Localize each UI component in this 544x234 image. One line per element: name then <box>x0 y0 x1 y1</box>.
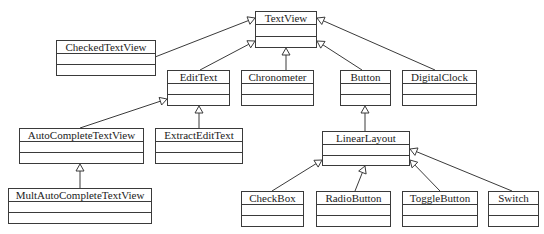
class-name: AutoCompleteTextView <box>20 129 143 142</box>
class-box-edittext: EditText <box>167 70 230 106</box>
class-name: RadioButton <box>317 192 390 205</box>
class-attributes-compartment <box>20 142 143 153</box>
class-attributes-compartment <box>403 205 477 216</box>
inheritance-line <box>415 165 440 191</box>
hollow-triangle-arrow-icon <box>317 17 325 24</box>
hollow-triangle-arrow-icon <box>195 106 203 113</box>
hollow-triangle-arrow-icon <box>76 164 84 171</box>
class-name: CheckedTextView <box>57 41 155 54</box>
class-name: Button <box>341 71 390 84</box>
class-operations-compartment <box>20 153 143 163</box>
class-attributes-compartment <box>242 205 303 216</box>
inheritance-line <box>323 21 435 70</box>
class-attributes-compartment <box>256 25 316 37</box>
class-attributes-compartment <box>403 84 476 95</box>
hollow-triangle-arrow-icon <box>247 17 255 24</box>
class-diagram-canvas: TextViewCheckedTextViewEditTextChronomet… <box>0 0 544 234</box>
class-operations-compartment <box>323 156 409 166</box>
class-operations-compartment <box>9 213 151 223</box>
class-operations-compartment <box>489 216 538 226</box>
hollow-triangle-arrow-icon <box>159 97 167 105</box>
class-name: CheckBox <box>242 192 303 205</box>
class-attributes-compartment <box>489 205 538 216</box>
class-operations-compartment <box>156 153 242 163</box>
class-name: Chronometer <box>242 71 313 84</box>
hollow-triangle-arrow-icon <box>361 106 369 113</box>
class-box-radiobutton: RadioButton <box>316 191 391 227</box>
hollow-triangle-arrow-icon <box>359 166 366 174</box>
class-name: TextView <box>256 12 316 25</box>
class-box-linearlayout: LinearLayout <box>322 131 410 166</box>
class-box-digitalclock: DigitalClock <box>402 70 477 106</box>
hollow-triangle-arrow-icon <box>314 160 322 167</box>
class-name: ExtractEditText <box>156 129 242 142</box>
class-box-chronometer: Chronometer <box>241 70 314 106</box>
class-box-switch: Switch <box>488 191 539 227</box>
class-attributes-compartment <box>9 202 151 213</box>
hollow-triangle-arrow-icon <box>410 148 418 155</box>
class-attributes-compartment <box>323 145 409 156</box>
class-name: ToggleButton <box>403 192 477 205</box>
class-name: EditText <box>168 71 229 84</box>
class-name: Switch <box>489 192 538 205</box>
class-name: DigitalClock <box>403 71 476 84</box>
class-attributes-compartment <box>168 84 229 95</box>
class-attributes-compartment <box>156 142 242 153</box>
class-name: MultAutoCompleteTextView <box>9 189 151 202</box>
class-box-checkbox: CheckBox <box>241 191 304 227</box>
class-name: LinearLayout <box>323 132 409 145</box>
inheritance-line <box>80 101 160 128</box>
inheritance-line <box>323 45 362 70</box>
class-attributes-compartment <box>242 84 313 95</box>
class-operations-compartment <box>403 216 477 226</box>
inheritance-line <box>200 44 249 70</box>
class-box-multautocompletetextview: MultAutoCompleteTextView <box>8 188 152 224</box>
class-operations-compartment <box>242 95 313 105</box>
class-operations-compartment <box>256 37 316 48</box>
class-box-button: Button <box>340 70 391 106</box>
class-operations-compartment <box>341 95 390 105</box>
class-attributes-compartment <box>57 54 155 65</box>
inheritance-line <box>416 152 512 191</box>
class-box-autocompletetextview: AutoCompleteTextView <box>19 128 144 164</box>
class-operations-compartment <box>403 95 476 105</box>
class-operations-compartment <box>242 216 303 226</box>
class-attributes-compartment <box>341 84 390 95</box>
hollow-triangle-arrow-icon <box>317 41 325 48</box>
class-box-checkedtextview: CheckedTextView <box>56 40 156 76</box>
class-attributes-compartment <box>317 205 390 216</box>
class-box-extractedittext: ExtractEditText <box>155 128 243 164</box>
class-box-textview: TextView <box>255 11 317 48</box>
class-operations-compartment <box>168 95 229 105</box>
hollow-triangle-arrow-icon <box>282 48 290 55</box>
inheritance-line <box>355 172 362 191</box>
class-operations-compartment <box>57 65 155 75</box>
inheritance-line <box>272 164 316 191</box>
class-operations-compartment <box>317 216 390 226</box>
class-box-togglebutton: ToggleButton <box>402 191 478 227</box>
